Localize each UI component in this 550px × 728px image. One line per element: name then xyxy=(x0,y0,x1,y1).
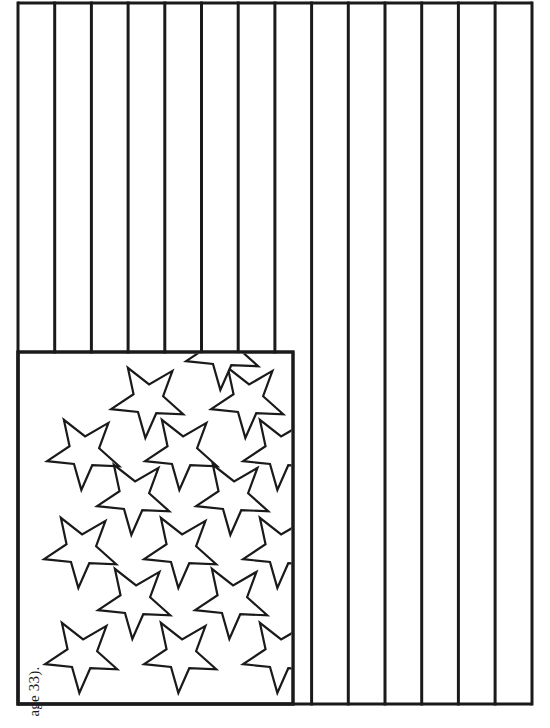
flag-illustration xyxy=(0,0,550,728)
flag-outline-group xyxy=(18,3,532,704)
coloring-page-canvas: age 33). xyxy=(0,0,550,728)
margin-page-reference: age 33). xyxy=(26,597,43,717)
